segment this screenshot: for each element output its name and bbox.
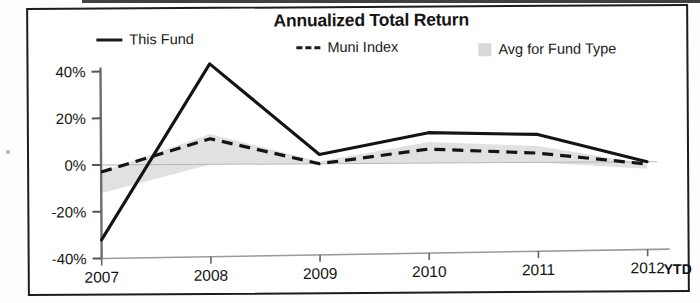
y-axis-label: 0%	[64, 157, 86, 174]
x-axis-label: 2007	[84, 268, 119, 285]
y-axis-label: -40%	[52, 250, 87, 267]
chart-frame: Annualized Total Return This Fund Muni I…	[26, 4, 690, 296]
solid-line-swatch-icon	[96, 38, 122, 41]
x-axis-label: 2010	[412, 263, 447, 280]
legend-item-this-fund: This Fund	[96, 31, 194, 48]
y-axis-label: 20%	[56, 110, 86, 127]
chart-title: Annualized Total Return	[28, 8, 690, 33]
y-axis-label: 40%	[55, 63, 85, 80]
chart-plot-area: 40%20%0%-20%-40% 20072008200920102011201…	[28, 50, 691, 296]
y-axis-label: -20%	[51, 203, 86, 220]
scanned-page-background: Annualized Total Return This Fund Muni I…	[0, 0, 700, 303]
dashed-line-swatch-icon	[296, 46, 320, 49]
x-axis-ytd-note: YTD	[664, 261, 692, 277]
x-axis-label: 2008	[194, 267, 229, 284]
legend-label-this-fund: This Fund	[129, 31, 194, 47]
x-axis-labels: 200720082009201020112012YTD	[84, 259, 691, 286]
x-axis-label: 2011	[522, 261, 555, 278]
x-axis-label: 2012	[630, 259, 665, 276]
y-axis-labels: 40%20%0%-20%-40%	[50, 63, 86, 267]
scan-artifact-top-edge	[82, 0, 700, 3]
x-axis-label: 2009	[303, 265, 338, 282]
scan-artifact-dot	[6, 150, 10, 154]
